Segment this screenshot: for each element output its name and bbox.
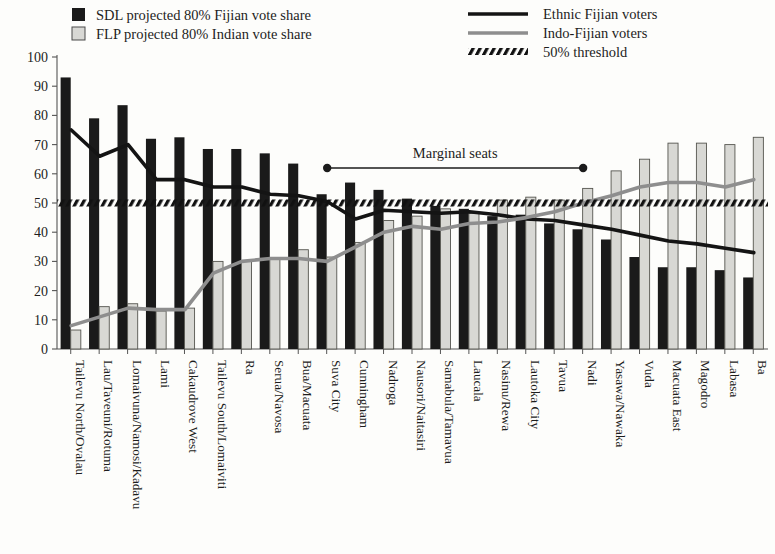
chart-legend: SDL projected 80% Fijian vote shareFLP p…	[72, 6, 658, 60]
x-tick-label: Nasinu/Rewa	[499, 360, 514, 431]
bar-sdl	[686, 267, 696, 349]
x-tick-label: Vuda	[642, 360, 657, 388]
bar-flp	[327, 257, 337, 349]
bar-flp	[583, 188, 593, 349]
y-tick-label: 90	[34, 79, 48, 94]
y-tick-label: 20	[34, 284, 48, 299]
bar-flp	[71, 330, 81, 349]
x-tick-label: Lami	[158, 360, 173, 388]
bar-group	[317, 194, 337, 349]
x-tick-label: Yasawa/Nawaka	[613, 360, 628, 447]
bar-group	[402, 199, 422, 349]
bar-sdl	[174, 137, 184, 349]
bar-flp	[668, 143, 678, 349]
bar-group	[118, 105, 138, 349]
legend-swatch-flp	[72, 27, 85, 40]
x-tick-label: Laucala	[471, 360, 486, 402]
bar-sdl	[629, 257, 639, 349]
legend-label-ethnic: Ethnic Fijian voters	[543, 6, 658, 22]
legend-label-flp: FLP projected 80% Indian vote share	[96, 26, 312, 42]
y-tick-label: 0	[41, 342, 48, 357]
x-tick-label: Tavua	[556, 360, 571, 392]
x-tick-label: Magodro	[698, 360, 713, 409]
x-tick-label: Ra	[243, 360, 258, 375]
bar-sdl	[601, 240, 611, 350]
bar-flp	[298, 250, 308, 349]
bar-group	[260, 153, 280, 349]
marginal-endpoint-left	[323, 164, 331, 172]
y-tick-label: 40	[34, 225, 48, 240]
x-tick-label: Bua/Macuata	[300, 360, 315, 430]
bar-flp	[469, 213, 479, 349]
x-tick-label: Lautoka City	[528, 360, 543, 430]
bar-flp	[241, 261, 251, 349]
bar-sdl	[61, 77, 71, 349]
legend-label-indo: Indo-Fijian voters	[543, 25, 648, 41]
bar-group	[573, 188, 593, 349]
bar-group	[203, 149, 223, 349]
bar-sdl	[345, 183, 355, 349]
bar-sdl	[487, 216, 497, 349]
marginal-endpoint-right	[579, 164, 587, 172]
y-tick-label: 80	[34, 108, 48, 123]
x-tick-label: Samabula/Tamavua	[442, 360, 457, 464]
x-tick-label: Lau/Taveuni/Rotuma	[101, 360, 116, 472]
legend-label-threshold: 50% threshold	[543, 44, 628, 60]
bar-group	[288, 164, 308, 349]
marginal-seats-label: Marginal seats	[413, 145, 498, 161]
legend-line-threshold	[468, 48, 528, 55]
x-tick-label: Tailevu North/Ovalau	[73, 360, 88, 476]
x-axis-labels: Tailevu North/OvalauLau/Taveuni/RotumaLo…	[71, 349, 771, 510]
x-tick-label: Labasa	[727, 360, 742, 397]
x-tick-label: Serua/Navosa	[272, 360, 287, 433]
x-tick-label: Nausori/Naitasiri	[414, 360, 429, 451]
bar-sdl	[260, 153, 270, 349]
legend-swatch-sdl	[72, 8, 85, 21]
x-tick-label: Ba	[755, 360, 770, 375]
bar-sdl	[743, 277, 753, 349]
bar-sdl	[516, 215, 526, 349]
vote-share-chart: SDL projected 80% Fijian vote shareFLP p…	[0, 0, 775, 554]
y-tick-label: 60	[34, 167, 48, 182]
y-tick-label: 70	[34, 138, 48, 153]
bar-sdl	[658, 267, 668, 349]
bar-sdl	[459, 209, 469, 349]
x-tick-label: Nadi	[585, 360, 600, 386]
x-tick-label: Cakaudrove West	[186, 360, 201, 453]
bar-flp	[384, 221, 394, 349]
bar-group	[658, 143, 678, 349]
bar-sdl	[573, 229, 583, 349]
x-tick-label: Macuata East	[670, 360, 685, 432]
bar-sdl	[203, 149, 213, 349]
y-tick-label: 50	[34, 196, 48, 211]
bar-flp	[611, 171, 621, 349]
bar-group	[743, 137, 763, 349]
bar-flp	[156, 311, 166, 349]
bar-flp	[184, 308, 194, 349]
bar-flp	[270, 258, 280, 349]
y-tick-label: 30	[34, 254, 48, 269]
bar-sdl	[544, 223, 554, 349]
bar-flp	[128, 304, 138, 349]
bar-flp	[412, 216, 422, 349]
bar-flp	[753, 137, 763, 349]
bar-flp	[355, 242, 365, 349]
x-tick-label: Tailevu South/Lomaiviti	[215, 360, 230, 489]
x-tick-label: Nadroga	[386, 360, 401, 406]
bar-sdl	[715, 270, 725, 349]
y-tick-label: 10	[34, 313, 48, 328]
bar-sdl	[288, 164, 298, 349]
marginal-seats-annotation: Marginal seats	[323, 145, 587, 172]
bar-sdl	[231, 149, 241, 349]
bar-sdl	[402, 199, 412, 349]
bar-group	[174, 137, 194, 349]
x-tick-label: Suva City	[329, 360, 344, 413]
bar-group	[459, 209, 479, 349]
x-tick-label: Lomaivuna/Namosi/Kadavu	[130, 360, 145, 510]
bar-group	[231, 149, 251, 349]
y-tick-label: 100	[27, 50, 48, 65]
bar-group	[345, 183, 365, 349]
legend-label-sdl: SDL projected 80% Fijian vote share	[96, 7, 311, 23]
chart-canvas: SDL projected 80% Fijian vote shareFLP p…	[0, 0, 775, 554]
threshold-line-50	[57, 200, 768, 207]
